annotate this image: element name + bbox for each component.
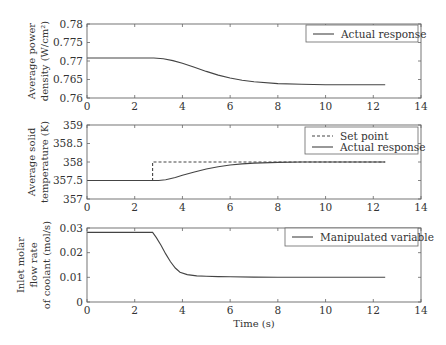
x-tick-labels: 02468101214 <box>84 100 428 112</box>
x-tick-label: 6 <box>227 100 234 112</box>
x-tick-label: 4 <box>179 100 186 112</box>
series-lines <box>87 162 385 181</box>
x-tick-label: 0 <box>84 201 91 213</box>
y-tick-label: 0.01 <box>60 271 83 283</box>
y-axis-title-line: density (W/cm²) <box>39 21 50 102</box>
y-tick-labels: 00.010.020.03 <box>60 222 83 308</box>
y-tick-label: 0.76 <box>60 92 84 104</box>
y-tick-label: 358.5 <box>53 137 83 149</box>
x-tick-label: 14 <box>414 100 428 112</box>
legend-label: Actual response <box>340 28 426 40</box>
y-tick-label: 358 <box>63 156 83 168</box>
series-actual-response <box>87 162 385 181</box>
x-tick-label: 14 <box>414 304 428 316</box>
y-tick-label: 0.77 <box>60 55 83 67</box>
x-tick-label: 12 <box>367 100 380 112</box>
x-tick-label: 14 <box>414 201 428 213</box>
x-tick-label: 2 <box>131 304 138 316</box>
x-tick-label: 8 <box>275 201 282 213</box>
legend: Set pointActual response <box>305 127 425 154</box>
y-axis-title-line: of coolant (mol/s) <box>41 221 52 309</box>
y-tick-label: 0.78 <box>60 18 83 30</box>
y-axis-title: Average powerdensity (W/cm²) <box>26 21 50 102</box>
x-tick-label: 2 <box>131 100 138 112</box>
x-tick-label: 12 <box>367 201 380 213</box>
y-axis-title: Inlet molarflow rateof coolant (mol/s) <box>15 221 52 309</box>
x-axis-title: Time (s) <box>233 318 274 329</box>
y-axis-title-line: temperature (K) <box>39 121 50 203</box>
legend: Manipulated variable <box>285 228 434 246</box>
y-tick-label: 0.775 <box>53 36 83 48</box>
x-tick-labels: 02468101214 <box>84 304 428 316</box>
x-tick-label: 8 <box>275 304 282 316</box>
y-tick-labels: 357357.5358358.5359 <box>53 119 83 205</box>
x-tick-label: 10 <box>319 100 332 112</box>
y-axis-title-line: Average power <box>26 23 37 101</box>
y-tick-label: 0 <box>76 296 83 308</box>
y-axis-title-line: Average solid <box>26 127 37 197</box>
y-axis-title-line: flow rate <box>28 242 39 287</box>
x-tick-label: 12 <box>367 304 380 316</box>
y-tick-labels: 0.760.7650.770.7750.78 <box>53 18 83 104</box>
x-tick-label: 10 <box>319 201 332 213</box>
x-tick-label: 8 <box>275 100 282 112</box>
series-lines <box>87 58 385 85</box>
y-tick-label: 0.03 <box>60 222 83 234</box>
y-axis-title: Average solidtemperature (K) <box>26 121 50 203</box>
y-axis-title-line: Inlet molar <box>15 237 26 293</box>
panel-coolant-flow: Inlet molarflow rateof coolant (mol/s) 0… <box>15 221 434 316</box>
legend: Actual response <box>306 25 426 42</box>
x-tick-label: 2 <box>131 201 138 213</box>
panel-solid-temperature: Average solidtemperature (K) 02468101214… <box>26 119 428 214</box>
x-tick-label: 10 <box>319 304 332 316</box>
y-tick-label: 0.765 <box>53 73 83 85</box>
legend-label: Manipulated variable <box>320 231 434 243</box>
series-actual-response <box>87 58 385 85</box>
legend-label: Actual response <box>339 141 425 153</box>
x-tick-label: 6 <box>227 201 234 213</box>
y-tick-label: 357 <box>63 193 83 205</box>
panel-power-density: Average powerdensity (W/cm²) 02468101214… <box>26 18 428 113</box>
x-tick-label: 4 <box>179 304 186 316</box>
y-tick-label: 357.5 <box>53 174 83 186</box>
x-tick-label: 6 <box>227 304 234 316</box>
x-tick-label: 4 <box>179 201 186 213</box>
figure: Average powerdensity (W/cm²) 02468101214… <box>0 0 446 345</box>
y-tick-label: 0.02 <box>60 246 83 258</box>
x-tick-labels: 02468101214 <box>84 201 428 213</box>
y-tick-label: 359 <box>63 119 83 131</box>
x-tick-label: 0 <box>84 304 91 316</box>
x-tick-label: 0 <box>84 100 91 112</box>
